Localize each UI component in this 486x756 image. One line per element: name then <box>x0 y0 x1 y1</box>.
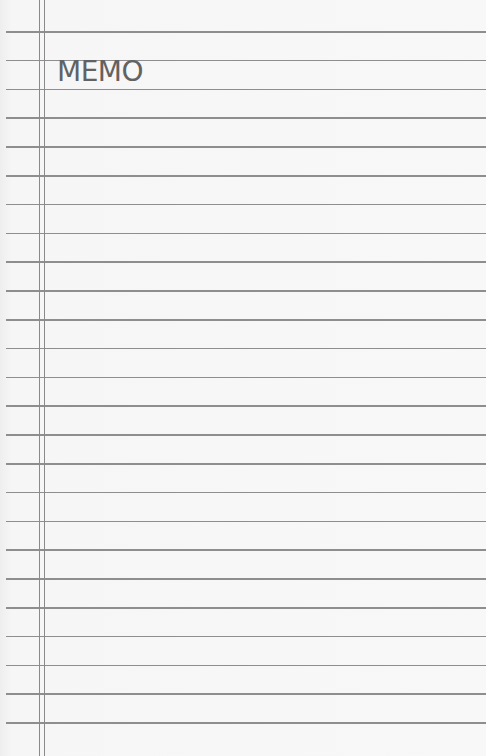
ruled-line <box>6 319 486 321</box>
ruled-line <box>6 722 486 724</box>
ruled-line <box>6 521 486 523</box>
ruled-line <box>6 204 486 206</box>
ruled-line <box>6 665 486 667</box>
ruled-line <box>6 607 486 609</box>
ruled-line <box>6 290 486 292</box>
memo-title: MEMO <box>57 56 143 88</box>
ruled-line <box>6 348 486 350</box>
ruled-line <box>6 89 486 91</box>
ruled-line <box>6 492 486 494</box>
margin-line-right <box>44 0 46 756</box>
memo-paper: MEMO <box>0 0 486 756</box>
ruled-line <box>6 578 486 580</box>
ruled-line <box>6 377 486 379</box>
ruled-line <box>6 146 486 148</box>
ruled-line <box>6 693 486 695</box>
ruled-line <box>6 233 486 235</box>
ruled-line <box>6 549 486 551</box>
ruled-line <box>6 434 486 436</box>
margin-line-left <box>39 0 41 756</box>
ruled-line <box>6 31 486 33</box>
ruled-line <box>6 636 486 638</box>
ruled-line <box>6 117 486 119</box>
ruled-line <box>6 405 486 407</box>
ruled-line <box>6 261 486 263</box>
ruled-line <box>6 175 486 177</box>
ruled-line <box>6 463 486 465</box>
